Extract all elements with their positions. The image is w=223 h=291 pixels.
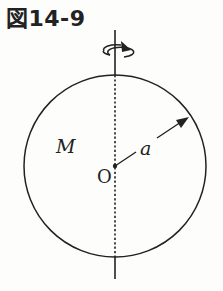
radius-arrowhead-icon <box>176 117 189 128</box>
sphere-diagram: M O a <box>0 0 223 291</box>
radius-label: a <box>140 137 151 159</box>
radius-line-upper <box>157 122 181 138</box>
rotation-arrow-icon <box>103 41 134 57</box>
radius-line-lower <box>115 152 136 166</box>
mass-label: M <box>55 135 76 157</box>
center-label: O <box>97 166 112 187</box>
